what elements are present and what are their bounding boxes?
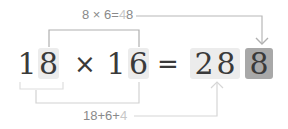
top-annotation-suffix: 8 xyxy=(126,7,133,22)
top-annotation: 8 × 6=48 xyxy=(82,7,133,22)
times-sign: × xyxy=(74,48,96,80)
digit-result-hundreds: 2 xyxy=(194,48,214,80)
digit-b-tens: 1 xyxy=(106,48,126,80)
bottom-annotation-dim: 4 xyxy=(120,108,127,123)
equals-sign: = xyxy=(157,48,179,80)
bottom-annotation: 18+6+4 xyxy=(83,108,127,123)
digit-b-units: 6 xyxy=(128,48,149,80)
top-annotation-prefix: 8 × 6= xyxy=(82,7,119,22)
digit-result-tens: 8 xyxy=(216,48,236,80)
bottom-annotation-prefix: 18+6+ xyxy=(83,108,120,123)
digit-a-units: 8 xyxy=(38,48,59,80)
digit-result-units: 8 xyxy=(248,48,270,80)
digit-a-tens: 1 xyxy=(17,48,37,80)
